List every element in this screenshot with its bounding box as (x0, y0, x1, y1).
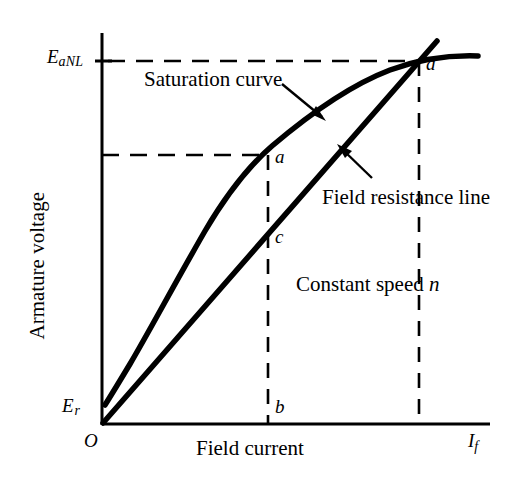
field-resistance-line-arrow (337, 144, 372, 178)
x-axis-title: Field current (196, 437, 304, 461)
point-label-b: b (275, 396, 285, 417)
point-label-c: c (275, 226, 283, 247)
er-subscript: r (74, 403, 80, 418)
x-end-label-if: If (468, 430, 478, 454)
saturation-curve-arrow (282, 84, 326, 121)
annotation-constant-speed: Constant speed n (296, 273, 414, 297)
annotation-saturation-curve: Saturation curve (144, 68, 276, 92)
dc-generator-saturation-diagram: Armature voltage Field current EaNL Er O… (0, 0, 515, 488)
eanl-subscript: aNL (59, 54, 84, 69)
y-tick-label-er: Er (62, 395, 80, 419)
point-label-a: a (275, 146, 285, 167)
y-tick-label-eanl: EaNL (47, 46, 83, 70)
er-symbol: E (62, 395, 74, 416)
annotation-field-resistance-line: Field resistance line (322, 186, 442, 210)
eanl-symbol: E (47, 46, 59, 67)
origin-label: O (84, 430, 98, 451)
if-subscript: f (474, 439, 478, 454)
y-axis-title: Armature voltage (26, 166, 50, 366)
field-resistance-line (103, 41, 437, 423)
constant-speed-text: Constant speed (296, 272, 429, 296)
constant-speed-symbol: n (429, 272, 440, 296)
point-label-d: d (426, 53, 436, 74)
